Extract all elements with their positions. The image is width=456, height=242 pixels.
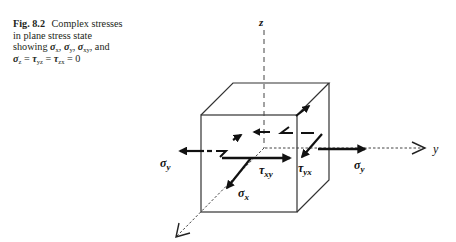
- sigma-y-left-label: σy: [160, 156, 171, 172]
- cube-top-face: [201, 83, 329, 115]
- z-axis-label: z: [258, 16, 264, 28]
- hidden-shear-glyph: [281, 127, 293, 133]
- corner-arrow-icon: [296, 106, 309, 116]
- sigma-x-label: σx: [238, 186, 249, 202]
- axes: [176, 30, 425, 237]
- sigma-x-arrow-icon: [227, 158, 251, 188]
- tau-yx-label: τyx: [298, 161, 312, 177]
- x-axis: [177, 148, 264, 236]
- sigma-y-right-label: σy: [354, 158, 365, 174]
- stress-cube-diagram: z y σy σy τxy τyx σx: [0, 0, 456, 242]
- hidden-shear-glyph: [216, 151, 226, 157]
- tau-yx-arrow-icon: [302, 134, 322, 157]
- y-axis-label: y: [432, 142, 439, 156]
- hidden-arrow-icon: [233, 135, 241, 140]
- tau-xy-label: τxy: [259, 163, 274, 179]
